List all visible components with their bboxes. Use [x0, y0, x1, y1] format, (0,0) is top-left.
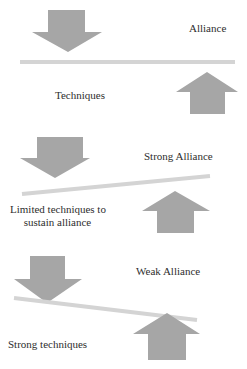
arrow-up-icon	[142, 191, 210, 233]
beam-tilted-up	[22, 176, 210, 194]
balance-diagram	[0, 0, 247, 369]
arrow-down-icon	[32, 10, 102, 52]
label-limited-techniques-line1: Limited techniques to	[10, 203, 105, 216]
label-limited-techniques-line2: sustain alliance	[10, 216, 105, 229]
label-alliance: Alliance	[189, 22, 226, 35]
label-weak-alliance: Weak Alliance	[136, 265, 200, 278]
arrow-down-icon	[20, 137, 90, 178]
label-strong-alliance: Strong Alliance	[144, 150, 213, 163]
label-strong-techniques: Strong techniques	[8, 338, 87, 351]
label-limited-techniques: Limited techniques to sustain alliance	[10, 203, 105, 229]
label-techniques: Techniques	[55, 89, 105, 102]
arrow-up-icon	[176, 72, 238, 114]
arrow-down-icon	[14, 256, 82, 303]
